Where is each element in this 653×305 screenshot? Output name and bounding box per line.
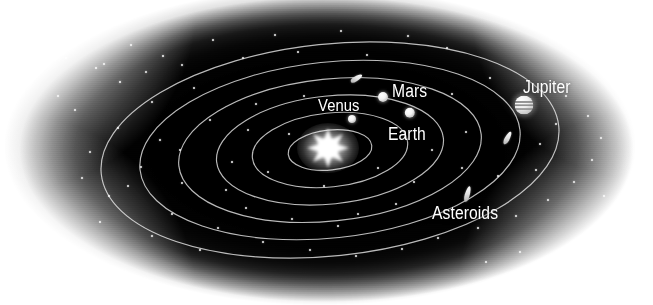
planet-mars	[378, 92, 388, 102]
solar-system-figure: VenusMarsEarthJupiterAsteroids	[0, 0, 653, 305]
label-jupiter: Jupiter	[523, 77, 571, 97]
orbit-ellipse	[286, 126, 374, 175]
label-asteroids: Asteroids	[432, 203, 498, 223]
label-venus: Venus	[318, 96, 360, 115]
orbit-ellipse	[131, 43, 529, 258]
label-mars: Mars	[392, 81, 427, 101]
label-earth: Earth	[388, 124, 426, 144]
planet-jupiter	[515, 96, 534, 115]
orbit-ellipse	[249, 105, 412, 195]
orbit-ellipse	[90, 21, 570, 280]
orbit-paths	[0, 0, 653, 305]
planet-venus	[348, 115, 356, 123]
